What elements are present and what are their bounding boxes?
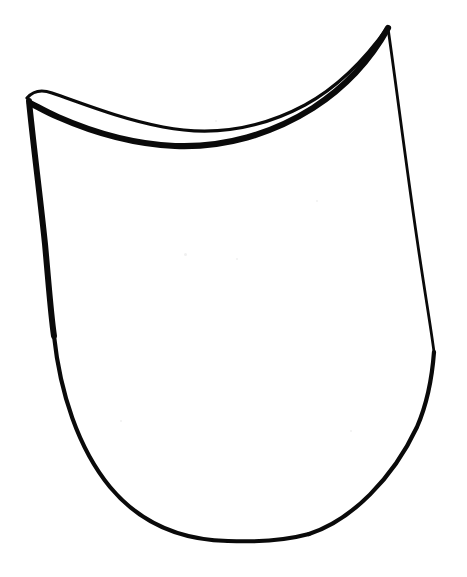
shield-line-drawing (0, 0, 467, 577)
drawing-canvas (0, 0, 467, 577)
